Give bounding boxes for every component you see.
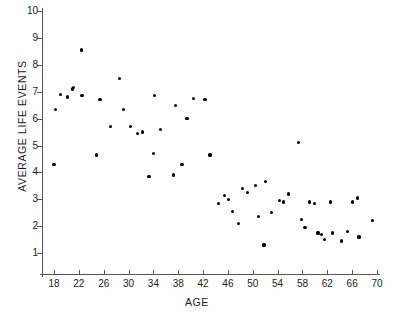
- scatter-chart-figure: AVERAGE LIFE EVENTS AGE 12345678910 1822…: [0, 0, 394, 314]
- data-point: [254, 184, 257, 187]
- data-point: [118, 77, 121, 80]
- x-tick-label: 42: [191, 279, 215, 289]
- x-tick-label: 34: [141, 279, 165, 289]
- x-tick-mark: [377, 270, 378, 275]
- x-tick-label: 22: [67, 279, 91, 289]
- data-point: [180, 163, 183, 166]
- data-point: [262, 243, 265, 246]
- data-point: [223, 194, 226, 197]
- x-tick-label: 26: [92, 279, 116, 289]
- y-tick-label: 5: [18, 141, 38, 151]
- data-point: [264, 180, 267, 183]
- x-tick-label: 70: [365, 279, 389, 289]
- data-point: [278, 199, 281, 202]
- data-point: [356, 196, 359, 199]
- data-point: [59, 93, 62, 96]
- data-point: [340, 239, 343, 242]
- data-point: [371, 219, 374, 222]
- data-point: [129, 125, 132, 128]
- data-point: [208, 153, 211, 156]
- data-point: [287, 192, 290, 195]
- data-point: [329, 200, 332, 203]
- data-point: [192, 97, 195, 100]
- data-point: [320, 233, 323, 236]
- y-tick-label: 1: [18, 248, 38, 258]
- data-point: [72, 86, 75, 89]
- data-point: [80, 94, 83, 97]
- y-tick-label: 8: [18, 60, 38, 70]
- data-point: [174, 104, 177, 107]
- data-point: [203, 98, 206, 101]
- data-point: [313, 202, 316, 205]
- data-point: [98, 98, 101, 101]
- y-axis-title: AVERAGE LIFE EVENTS: [16, 46, 28, 206]
- data-point: [282, 200, 285, 203]
- x-tick-label: 18: [42, 279, 66, 289]
- data-point: [257, 215, 260, 218]
- data-point: [241, 187, 244, 190]
- data-point: [323, 238, 326, 241]
- data-point: [152, 152, 155, 155]
- x-tick-label: 46: [216, 279, 240, 289]
- data-point: [80, 48, 83, 51]
- x-axis-line: [40, 274, 380, 275]
- data-point: [231, 210, 234, 213]
- data-point: [52, 163, 55, 166]
- data-point: [95, 153, 98, 156]
- data-point: [147, 175, 150, 178]
- data-point: [109, 125, 112, 128]
- data-point: [141, 130, 144, 133]
- y-tick-label: 2: [18, 221, 38, 231]
- x-tick-label: 30: [117, 279, 141, 289]
- y-tick-label: 9: [18, 33, 38, 43]
- plot-area: [42, 11, 377, 274]
- x-tick-label: 66: [340, 279, 364, 289]
- y-tick-label: 7: [18, 87, 38, 97]
- data-point: [217, 202, 220, 205]
- data-point: [136, 132, 139, 135]
- data-point: [54, 108, 57, 111]
- y-tick-label: 10: [18, 6, 38, 16]
- data-point: [346, 230, 349, 233]
- data-point: [227, 198, 230, 201]
- y-tick-label: 4: [18, 167, 38, 177]
- x-tick-label: 50: [241, 279, 265, 289]
- data-point: [185, 117, 188, 120]
- x-tick-label: 38: [166, 279, 190, 289]
- data-point: [357, 235, 360, 238]
- data-point: [297, 141, 300, 144]
- x-tick-label: 58: [290, 279, 314, 289]
- x-axis-title: AGE: [0, 296, 394, 308]
- x-tick-label: 62: [315, 279, 339, 289]
- data-point: [237, 222, 240, 225]
- y-tick-label: 3: [18, 194, 38, 204]
- data-point: [351, 200, 354, 203]
- data-point: [122, 108, 125, 111]
- data-point: [159, 128, 162, 131]
- data-point: [270, 211, 273, 214]
- data-point: [246, 191, 249, 194]
- data-point: [153, 94, 156, 97]
- data-point: [303, 226, 306, 229]
- y-tick-label: 6: [18, 114, 38, 124]
- data-point: [66, 95, 69, 98]
- x-tick-label: 54: [266, 279, 290, 289]
- data-point: [308, 200, 311, 203]
- data-point: [331, 231, 334, 234]
- data-point: [172, 173, 175, 176]
- data-point: [300, 218, 303, 221]
